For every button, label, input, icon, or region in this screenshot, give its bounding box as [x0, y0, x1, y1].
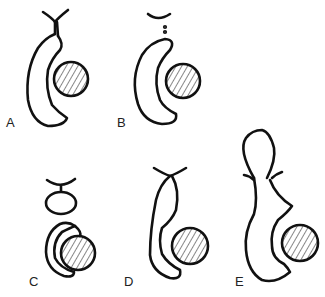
panel-b-drawing	[135, 14, 200, 124]
diagram-canvas	[0, 0, 325, 297]
panel-label-e: E	[235, 274, 244, 289]
panel-label-a: A	[6, 115, 15, 130]
panel-a-drawing	[27, 10, 88, 126]
panel-label-d: D	[124, 274, 133, 289]
panel-label-b: B	[117, 115, 126, 130]
panel-c-drawing	[46, 179, 95, 277]
panel-d-drawing	[150, 168, 208, 278]
panel-e-drawing	[243, 130, 318, 281]
panel-label-c: C	[29, 274, 38, 289]
